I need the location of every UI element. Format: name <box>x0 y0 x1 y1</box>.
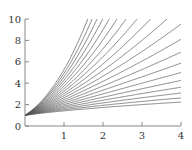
y-axis-ticks: 0246810 <box>8 14 29 132</box>
x-axis-ticks: 1234 <box>61 122 184 141</box>
y-tick-label: 2 <box>15 99 21 110</box>
y-tick-label: 10 <box>8 14 21 25</box>
x-tick-label: 2 <box>100 130 106 141</box>
y-tick-label: 0 <box>15 121 21 132</box>
y-tick-label: 6 <box>15 56 21 67</box>
curve <box>25 73 181 116</box>
curve <box>25 19 126 115</box>
y-tick-label: 4 <box>15 78 21 89</box>
x-tick-label: 1 <box>61 130 67 141</box>
y-tick-label: 8 <box>15 35 21 46</box>
x-tick-label: 3 <box>139 130 145 141</box>
line-chart: 0246810 1234 <box>0 0 192 150</box>
curve <box>25 24 181 115</box>
x-tick-label: 4 <box>178 130 184 141</box>
curve <box>25 19 109 115</box>
curve <box>25 19 103 115</box>
curve <box>25 52 181 115</box>
curve-family <box>25 19 181 115</box>
